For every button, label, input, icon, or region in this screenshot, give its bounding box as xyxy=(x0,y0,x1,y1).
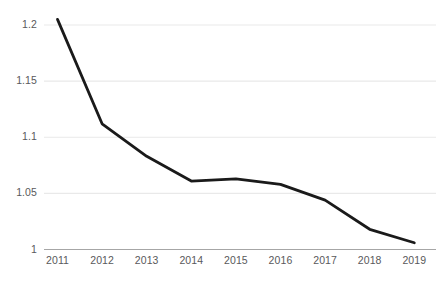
x-axis-tick-label: 2011 xyxy=(36,254,80,266)
y-axis-tick-label: 1 xyxy=(5,243,37,255)
y-axis-tick-label: 1.05 xyxy=(5,186,37,198)
x-axis-tick-label: 2012 xyxy=(80,254,124,266)
x-axis-tick-label: 2013 xyxy=(125,254,169,266)
x-axis-tick-label: 2016 xyxy=(259,254,303,266)
series-line xyxy=(58,19,415,242)
x-axis-tick-label: 2014 xyxy=(169,254,213,266)
y-axis-tick-label: 1.1 xyxy=(5,130,37,142)
gridlines xyxy=(44,25,436,193)
x-axis-tick-label: 2015 xyxy=(214,254,258,266)
y-axis-tick-label: 1.15 xyxy=(5,74,37,86)
x-axis-tick-label: 2017 xyxy=(303,254,347,266)
y-axis-tick-label: 1.2 xyxy=(5,18,37,30)
x-axis-tick-label: 2018 xyxy=(348,254,392,266)
line-chart: 1.21.151.11.051 201120122013201420152016… xyxy=(0,0,443,282)
chart-plot-area xyxy=(0,0,443,282)
x-axis-tick-label: 2019 xyxy=(392,254,436,266)
data-series-line xyxy=(58,19,415,242)
